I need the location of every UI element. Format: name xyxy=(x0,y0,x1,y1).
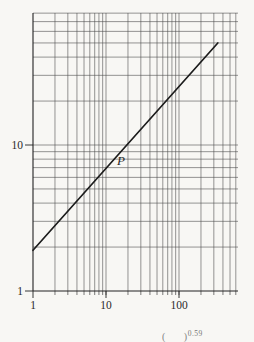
x-tick-label: 10 xyxy=(100,299,112,311)
data-line xyxy=(33,43,218,250)
caption-base: ( ) xyxy=(162,331,188,342)
x-axis-caption: ( )0.59 xyxy=(162,329,203,342)
chart-grid: 110100110P xyxy=(0,0,254,342)
point-label-p: P xyxy=(116,153,125,168)
y-tick-label: 1 xyxy=(17,285,23,297)
x-tick-label: 100 xyxy=(170,299,188,311)
x-tick-label: 1 xyxy=(30,299,36,311)
scanned-page: 110100110P ( )0.59 xyxy=(0,0,254,342)
log-log-chart: 110100110P ( )0.59 xyxy=(0,0,254,342)
y-tick-label: 10 xyxy=(12,139,24,151)
caption-exponent: 0.59 xyxy=(188,329,203,338)
